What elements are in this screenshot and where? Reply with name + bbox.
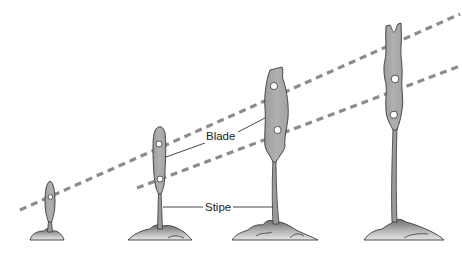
hole-4b	[390, 111, 398, 118]
stipe-4	[392, 128, 397, 222]
rock-1	[30, 229, 64, 240]
stipe-1	[48, 221, 53, 232]
kelp-diagram: Blade Stipe	[0, 0, 462, 254]
kelp-stage-4	[364, 23, 444, 240]
stipe-2	[158, 192, 163, 229]
stipe-label: Stipe	[203, 201, 233, 214]
blade-1	[45, 181, 55, 222]
hole-4a	[391, 75, 399, 83]
blade-2	[153, 127, 166, 194]
hole-3b	[274, 126, 281, 133]
blade-leader-left	[166, 143, 205, 157]
stipe-3	[272, 158, 279, 224]
blade-3	[265, 67, 289, 162]
kelp-stage-2	[128, 127, 192, 240]
diagram-canvas	[0, 0, 462, 254]
kelp-stage-1	[30, 181, 64, 240]
hole-1a	[48, 195, 53, 200]
kelp-stage-3	[232, 67, 318, 240]
blade-label: Blade	[204, 130, 237, 143]
hole-3a	[270, 82, 277, 89]
blade-leader-right	[238, 118, 265, 132]
hole-2a	[156, 141, 162, 147]
rock-4	[364, 219, 444, 240]
hole-2b	[157, 176, 163, 182]
